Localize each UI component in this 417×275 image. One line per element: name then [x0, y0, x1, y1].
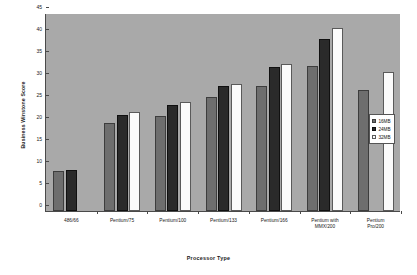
bar-24MB-486/66: [66, 170, 77, 211]
y-axis-tick-label: 25: [36, 92, 46, 98]
legend-item-16MB: 16MB: [372, 117, 391, 125]
x-axis-tick-mark: [350, 211, 351, 214]
legend-label: 24MB: [379, 127, 391, 132]
bar-24MB-Pentium/133: [218, 86, 229, 211]
legend-swatch-icon: [372, 135, 376, 139]
bar-24MB-Pentium/75: [117, 115, 128, 211]
y-axis-tick-label: 35: [36, 48, 46, 54]
legend-swatch-icon: [372, 127, 376, 131]
y-axis-tick-mark: [46, 117, 49, 118]
bar-16MB-Pentium/75: [104, 123, 115, 211]
x-axis-label-line: Pro/200: [346, 224, 406, 230]
x-axis-tick-mark: [249, 211, 250, 214]
bar-16MB-Pentium/166: [256, 86, 267, 211]
y-axis-tick-mark: [46, 95, 49, 96]
legend-label: 16MB: [379, 119, 391, 124]
y-axis-tick-mark: [46, 73, 49, 74]
legend-item-24MB: 24MB: [372, 125, 391, 133]
x-axis-tick-mark: [198, 211, 199, 214]
y-axis-title: Business Winstone Score: [20, 40, 26, 190]
legend-label: 32MB: [379, 135, 391, 140]
bar-16MB-Pentium/100: [155, 116, 166, 211]
bar-16MB-Pentium/133: [206, 97, 217, 211]
y-axis-tick-label: 30: [36, 70, 46, 76]
y-axis-tick-mark: [46, 29, 49, 30]
x-axis-tick-mark: [97, 211, 98, 214]
legend-swatch-icon: [372, 119, 376, 123]
plot-inner: 051015202530354045486/66Pentium/75Pentiu…: [46, 14, 400, 211]
x-axis-tick-mark: [300, 211, 301, 214]
x-axis-title: Processor Type: [0, 255, 417, 261]
y-axis-tick-mark: [46, 205, 49, 206]
bar-24MB-Pentium/100: [167, 105, 178, 211]
bar-32MB-Pentium/75: [129, 112, 140, 211]
y-axis-tick-label: 45: [36, 4, 46, 10]
bar-32MB-Pentium/166: [281, 64, 292, 211]
legend-item-32MB: 32MB: [372, 133, 391, 141]
bar-24MB-Pentium/166: [269, 67, 280, 211]
plot-area: 051015202530354045486/66Pentium/75Pentiu…: [45, 14, 400, 212]
y-axis-tick-mark: [46, 183, 49, 184]
y-axis-tick-mark: [46, 161, 49, 162]
bar-16MB-Pentium Pro/200: [358, 90, 369, 211]
x-axis-tick-mark: [401, 211, 402, 214]
chart-legend: 16MB24MB32MB: [369, 114, 395, 144]
y-axis-tick-mark: [46, 139, 49, 140]
bar-16MB-486/66: [53, 171, 64, 211]
y-axis-tick-label: 20: [36, 114, 46, 120]
bar-16MB-Pentium with MMX/200: [307, 66, 318, 211]
y-axis-tick-mark: [46, 7, 49, 8]
bar-32MB-Pentium with MMX/200: [332, 28, 343, 211]
y-axis-tick-label: 10: [36, 158, 46, 164]
bar-chart: Business Winstone Score 0510152025303540…: [0, 0, 417, 275]
x-axis-tick-mark: [147, 211, 148, 214]
y-axis-tick-label: 0: [39, 202, 46, 208]
y-axis-tick-label: 5: [39, 180, 46, 186]
y-axis-tick-mark: [46, 51, 49, 52]
bar-24MB-Pentium with MMX/200: [319, 39, 330, 211]
bar-32MB-Pentium/100: [180, 102, 191, 211]
y-axis-tick-label: 40: [36, 26, 46, 32]
bar-32MB-Pentium/133: [231, 84, 242, 211]
y-axis-tick-label: 15: [36, 136, 46, 142]
x-axis-label: PentiumPro/200: [346, 218, 406, 230]
